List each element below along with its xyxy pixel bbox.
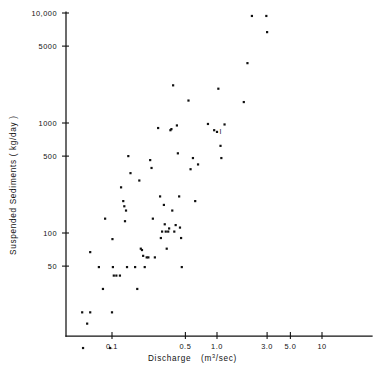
data-point <box>167 230 169 232</box>
data-point <box>98 266 100 268</box>
data-point <box>109 347 111 349</box>
y-tick-label: 50 <box>48 262 57 271</box>
data-point <box>125 209 127 211</box>
y-tick-label: 100 <box>43 229 57 238</box>
data-point <box>175 224 177 226</box>
data-point <box>207 123 209 125</box>
data-point <box>111 238 113 240</box>
data-point <box>89 311 91 313</box>
data-point <box>170 128 172 130</box>
y-tick-label: 1000 <box>39 119 57 128</box>
y-tick-label: 10,000 <box>31 9 57 18</box>
data-point <box>120 186 122 188</box>
data-point <box>168 227 170 229</box>
data-point <box>266 31 268 33</box>
data-point <box>115 274 117 276</box>
data-point <box>197 163 199 165</box>
data-point <box>223 123 225 125</box>
data-point <box>102 288 104 290</box>
data-point <box>141 249 143 251</box>
point-annotation: I <box>220 128 222 135</box>
data-point <box>160 237 162 239</box>
data-point <box>142 255 144 257</box>
data-point <box>251 15 253 17</box>
data-point <box>189 168 191 170</box>
data-point <box>194 200 196 202</box>
y-axis-ticks: 501005001000500010,000 <box>31 9 69 271</box>
data-point <box>181 266 183 268</box>
y-tick-label: 5000 <box>39 42 57 51</box>
data-point <box>150 167 152 169</box>
data-point <box>86 323 88 325</box>
y-tick-label: 500 <box>43 152 57 161</box>
data-point <box>163 204 165 206</box>
data-point <box>122 200 124 202</box>
data-point <box>126 266 128 268</box>
data-point <box>152 218 154 220</box>
data-point <box>265 15 267 17</box>
x-tick-label: 5.0 <box>285 342 297 351</box>
data-point <box>129 172 131 174</box>
data-point <box>111 311 113 313</box>
x-unit-close: /sec) <box>216 354 237 363</box>
x-tick-label: 10 <box>317 342 326 351</box>
data-point <box>127 155 129 157</box>
data-point <box>216 131 218 133</box>
x-tick-label: 0.5 <box>180 342 192 351</box>
data-point <box>154 256 156 258</box>
data-point <box>217 88 219 90</box>
data-point <box>157 127 159 129</box>
scatter-plot-figure: 501005001000500010,000 0.10.51.03.05.010… <box>0 0 379 375</box>
data-point <box>246 62 248 64</box>
plot-annotations: I <box>220 128 222 135</box>
data-point <box>178 195 180 197</box>
x-tick-label: 3.0 <box>261 342 273 351</box>
data-point <box>124 220 126 222</box>
data-point <box>147 256 149 258</box>
data-point <box>161 230 163 232</box>
data-point <box>119 274 121 276</box>
data-point <box>179 226 181 228</box>
data-point <box>165 230 167 232</box>
data-point <box>138 179 140 181</box>
x-unit-open: (m <box>201 354 212 363</box>
data-point <box>173 230 175 232</box>
x-axis-title-name: Discharge <box>148 354 191 363</box>
x-tick-label: 1.0 <box>211 342 223 351</box>
x-axis-title-unit: (m3/sec) <box>201 353 237 363</box>
data-point <box>192 157 194 159</box>
data-points <box>81 15 268 349</box>
y-axis-title: Suspended Sediments ( kg/day ) <box>9 115 18 255</box>
data-point <box>177 152 179 154</box>
data-point <box>219 145 221 147</box>
data-point <box>144 266 146 268</box>
data-point <box>81 311 83 313</box>
data-point <box>172 84 174 86</box>
data-point <box>104 218 106 220</box>
data-point <box>164 223 166 225</box>
data-point <box>134 266 136 268</box>
data-point <box>123 205 125 207</box>
data-point <box>243 101 245 103</box>
data-point <box>187 99 189 101</box>
x-tick-label: 0.1 <box>106 342 118 351</box>
axes <box>66 12 372 336</box>
data-point <box>89 251 91 253</box>
x-axis-ticks: 0.10.51.03.05.010 <box>106 332 327 351</box>
data-point <box>149 159 151 161</box>
data-point <box>180 237 182 239</box>
data-point <box>82 347 84 349</box>
data-point <box>176 124 178 126</box>
data-point <box>159 195 161 197</box>
data-point <box>213 129 215 131</box>
data-point <box>112 266 114 268</box>
data-point <box>171 209 173 211</box>
data-point <box>220 157 222 159</box>
x-axis-title: Discharge (m3/sec) <box>148 353 237 363</box>
data-point <box>136 288 138 290</box>
plot-canvas: 501005001000500010,000 0.10.51.03.05.010… <box>0 0 379 375</box>
data-point <box>113 274 115 276</box>
data-point <box>166 248 168 250</box>
